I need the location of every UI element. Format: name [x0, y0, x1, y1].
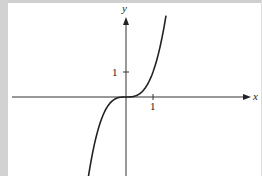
- y-tick-label: 1: [112, 67, 118, 78]
- y-axis-label: y: [122, 3, 127, 14]
- cubic-curve: [88, 16, 166, 176]
- plot-area: [0, 0, 262, 176]
- x-tick-label: 1: [150, 101, 156, 112]
- x-axis-label: x: [253, 91, 258, 102]
- x-axis-arrow-icon: [243, 94, 251, 100]
- y-axis-arrow-icon: [123, 17, 129, 25]
